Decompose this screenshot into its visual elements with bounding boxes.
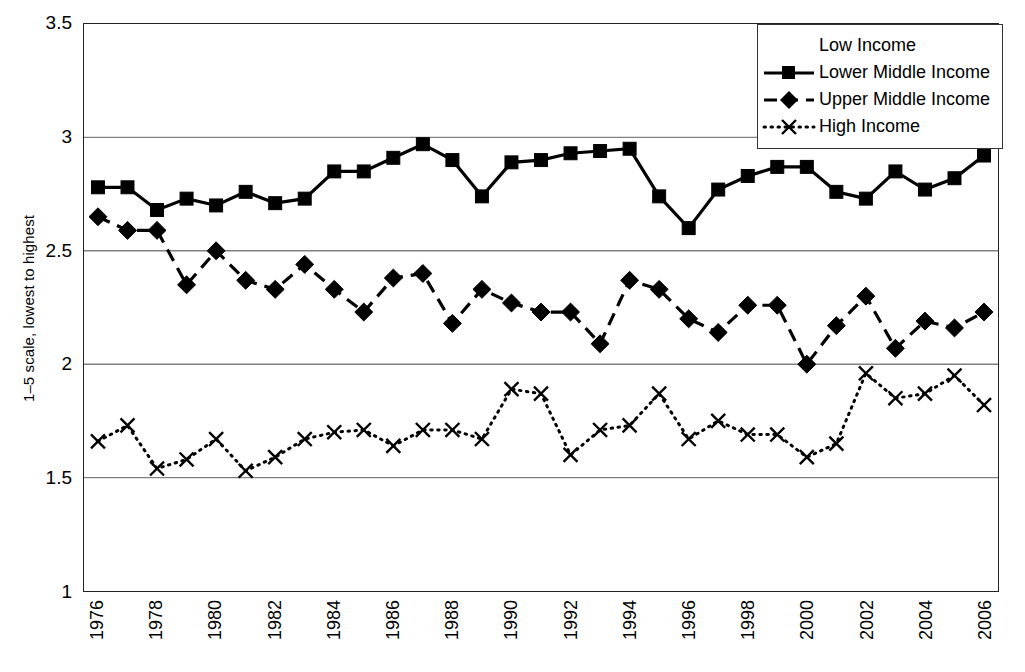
data-point-marker <box>328 165 341 178</box>
data-point-marker <box>384 269 402 287</box>
x-tick-label: 1976 <box>87 600 108 640</box>
legend-marker-icon <box>762 89 816 111</box>
data-point-marker <box>918 387 932 401</box>
data-point-marker <box>859 366 873 380</box>
data-point-marker <box>830 185 843 198</box>
x-tick-label: 2006 <box>975 600 996 640</box>
series-line <box>98 217 984 364</box>
y-tick-label: 1.5 <box>18 467 80 489</box>
data-point-marker <box>594 145 607 158</box>
data-point-marker <box>151 203 164 216</box>
data-point-marker <box>564 448 578 462</box>
data-point-marker <box>532 303 550 321</box>
x-tick-label: 1986 <box>383 600 404 640</box>
data-point-marker <box>948 369 962 383</box>
data-point-marker <box>268 450 282 464</box>
data-point-marker <box>564 147 577 160</box>
x-tick-label: 1992 <box>560 600 581 640</box>
data-point-marker <box>711 414 725 428</box>
data-point-marker <box>682 222 695 235</box>
data-point-marker <box>386 439 400 453</box>
data-point-marker <box>652 387 666 401</box>
x-axis-tick-labels: 1976197819801982198419861988199019921994… <box>83 592 999 672</box>
data-point-marker <box>504 382 518 396</box>
data-point-marker <box>446 154 459 167</box>
x-tick-label: 1982 <box>264 600 285 640</box>
data-point-marker <box>298 192 311 205</box>
data-point-marker <box>859 192 872 205</box>
data-point-marker <box>357 423 371 437</box>
data-point-marker <box>505 156 518 169</box>
y-tick-label: 3.5 <box>18 12 80 34</box>
data-point-marker <box>918 183 931 196</box>
data-point-marker <box>741 169 754 182</box>
x-tick-label: 1988 <box>442 600 463 640</box>
x-tick-label: 1984 <box>323 600 344 640</box>
data-point-marker <box>739 296 757 314</box>
data-point-marker <box>416 423 430 437</box>
x-tick-label: 2004 <box>915 600 936 640</box>
series-high-income <box>91 366 991 477</box>
data-point-marker <box>121 418 135 432</box>
data-point-marker <box>296 255 314 273</box>
chart-legend: Low IncomeLower Middle IncomeUpper Middl… <box>757 24 1003 149</box>
series-lower-middle-income <box>91 138 990 235</box>
chart-figure: 1–5 scale, lowest to highest 11.522.533.… <box>0 0 1025 672</box>
y-tick-label: 2 <box>18 353 80 375</box>
legend-label: High Income <box>816 116 920 137</box>
data-point-marker <box>502 294 520 312</box>
data-point-marker <box>210 199 223 212</box>
data-point-marker <box>946 319 964 337</box>
legend-marker-icon <box>762 116 816 138</box>
data-point-marker <box>414 265 432 283</box>
x-tick-label: 2000 <box>797 600 818 640</box>
legend-marker-icon <box>762 35 816 57</box>
data-point-marker <box>978 149 991 162</box>
data-point-marker <box>857 287 875 305</box>
data-point-marker <box>237 271 255 289</box>
data-point-marker <box>800 160 813 173</box>
x-tick-label: 1994 <box>619 600 640 640</box>
series-line <box>98 373 984 471</box>
data-point-marker <box>387 151 400 164</box>
data-point-marker <box>121 181 134 194</box>
data-point-marker <box>298 432 312 446</box>
data-point-marker <box>623 142 636 155</box>
data-point-marker <box>977 398 991 412</box>
legend-item-lower-middle-income[interactable]: Lower Middle Income <box>762 59 996 86</box>
data-point-marker <box>91 181 104 194</box>
data-point-marker <box>682 432 696 446</box>
x-tick-label: 1998 <box>738 600 759 640</box>
data-point-marker <box>975 303 993 321</box>
data-point-marker <box>888 391 902 405</box>
x-tick-label: 1980 <box>205 600 226 640</box>
data-point-marker <box>180 192 193 205</box>
legend-item-low-income[interactable]: Low Income <box>762 32 996 59</box>
data-point-marker <box>239 464 253 478</box>
data-point-marker <box>771 160 784 173</box>
data-point-marker <box>266 280 284 298</box>
data-point-marker <box>89 208 107 226</box>
x-tick-label: 1990 <box>501 600 522 640</box>
data-point-marker <box>325 280 343 298</box>
y-tick-label: 2.5 <box>18 240 80 262</box>
data-point-marker <box>475 190 488 203</box>
y-axis-tick-labels: 11.522.533.5 <box>0 0 80 672</box>
data-point-marker <box>443 314 461 332</box>
y-tick-label: 3 <box>18 126 80 148</box>
legend-label: Lower Middle Income <box>816 62 990 83</box>
data-point-marker <box>209 432 223 446</box>
data-point-marker <box>91 434 105 448</box>
legend-item-upper-middle-income[interactable]: Upper Middle Income <box>762 86 996 113</box>
data-point-marker <box>889 165 902 178</box>
data-point-marker <box>475 432 489 446</box>
x-tick-label: 2002 <box>856 600 877 640</box>
data-point-marker <box>621 271 639 289</box>
data-point-marker <box>829 437 843 451</box>
data-point-marker <box>709 323 727 341</box>
data-point-marker <box>416 138 429 151</box>
data-point-marker <box>357 165 370 178</box>
legend-label: Low Income <box>816 35 916 56</box>
y-tick-label: 1 <box>18 581 80 603</box>
legend-item-high-income[interactable]: High Income <box>762 113 996 140</box>
